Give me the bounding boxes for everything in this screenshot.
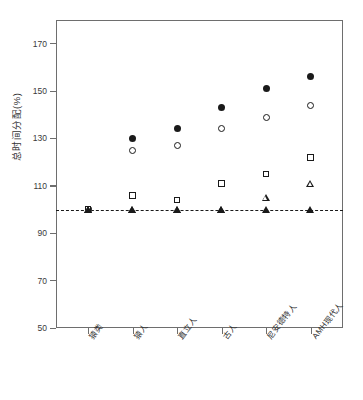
y-axis-tick-70: 70 [0, 275, 56, 287]
data-point-open-square-3 [218, 180, 224, 186]
data-point-filled-triangle-0 [84, 206, 92, 213]
data-point-open-square-1 [129, 192, 135, 198]
y-axis-tick-label: 150 [33, 85, 47, 97]
y-axis-tick-label: 130 [33, 132, 47, 144]
y-axis-tick-150: 150 [0, 85, 56, 97]
y-axis-title: 总时间分配(%) [9, 57, 23, 197]
data-point-open-circle-5 [307, 102, 314, 109]
y-axis-tick-label: 90 [38, 227, 47, 239]
y-axis-tick-110: 110 [0, 180, 56, 192]
y-axis-tick-label: 50 [38, 322, 47, 334]
data-point-filled-circle-4 [263, 85, 270, 92]
data-point-open-circle-2 [174, 142, 181, 149]
data-point-filled-triangle-4 [262, 206, 270, 213]
y-axis-tick-90: 90 [0, 227, 56, 239]
data-point-filled-triangle-1 [128, 206, 136, 213]
y-axis-tick-50: 50 [0, 322, 56, 334]
data-point-open-circle-4 [263, 114, 270, 121]
y-axis-tick-label: 70 [38, 275, 47, 287]
data-point-filled-circle-1 [129, 135, 136, 142]
y-axis-tick-label: 170 [33, 38, 47, 50]
data-point-open-square-4 [263, 171, 269, 177]
data-point-filled-triangle-2 [173, 206, 181, 213]
chart-container: 总时间分配(%) 709011013015017050 猿类猿人直立人古人尼安德… [0, 0, 363, 400]
data-point-filled-triangle-5 [306, 206, 314, 213]
data-point-open-square-2 [174, 197, 180, 203]
y-axis-tick-label: 110 [33, 180, 47, 192]
y-axis-tick-130: 130 [0, 132, 56, 144]
data-point-filled-triangle-3 [217, 206, 225, 213]
data-point-open-square-5 [307, 154, 313, 160]
plot-area [56, 20, 343, 328]
data-point-open-circle-1 [129, 147, 136, 154]
y-axis-tick-170: 170 [0, 38, 56, 50]
data-point-open-triangle-5 [306, 180, 314, 187]
reference-line-100 [56, 210, 343, 211]
data-point-open-triangle-4 [262, 194, 270, 201]
